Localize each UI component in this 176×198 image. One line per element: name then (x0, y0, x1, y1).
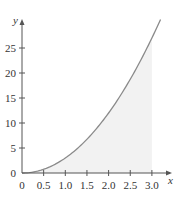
x-tick-label: 0.5 (37, 179, 51, 191)
y-tick-label: 10 (5, 117, 17, 129)
x-tick-label: 1.5 (80, 179, 94, 191)
y-tick-label: 20 (5, 67, 17, 79)
y-tick-label: 25 (5, 42, 17, 54)
x-tick-label: 1.0 (58, 179, 72, 191)
y-tick-label: 0 (11, 167, 17, 179)
y-axis-arrow-icon (20, 19, 25, 25)
y-tick-label: 15 (5, 92, 17, 104)
x-tick-label: 2.0 (102, 179, 116, 191)
chart: 00.51.01.52.02.53.0 0510152025 x y (0, 0, 176, 198)
x-tick-label: 2.5 (123, 179, 137, 191)
x-tick-label: 3.0 (145, 179, 159, 191)
x-axis-label: x (167, 174, 173, 186)
y-tick-label: 5 (11, 142, 17, 154)
shaded-area (22, 38, 152, 173)
x-tick-label: 0 (19, 179, 25, 191)
y-axis-label: y (12, 14, 18, 26)
